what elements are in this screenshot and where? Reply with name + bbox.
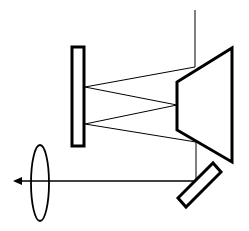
concave-mirror-trapezoid	[177, 48, 232, 162]
optical-diagram	[0, 0, 249, 231]
arrow-head-icon	[13, 177, 22, 185]
flat-mirror	[72, 47, 84, 146]
fold-mirror	[178, 163, 221, 207]
ray-3	[85, 105, 177, 124]
lens	[31, 145, 49, 221]
ray-2	[85, 87, 177, 105]
